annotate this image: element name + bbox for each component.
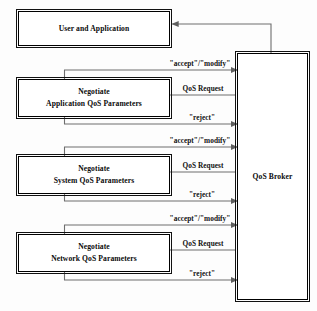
edge-label-sys-reject: "reject" — [168, 190, 236, 199]
edge-app-accept-modify — [65, 70, 238, 79]
qos-broker-diagram: User and Application Negotiate Applicati… — [0, 0, 317, 311]
edge-net-accept-modify — [65, 225, 238, 234]
edge-label-net-qos-request: QoS Request — [166, 239, 240, 248]
node-user-and-application[interactable]: User and Application — [18, 11, 170, 46]
edge-label-sys-qos-request: QoS Request — [166, 161, 240, 170]
edge-sys-accept-modify — [65, 147, 238, 156]
node-negotiate-system-line1: Negotiate — [78, 163, 110, 175]
edge-label-sys-accept-modify: "accept"/"modify" — [156, 136, 244, 145]
node-negotiate-network-line2: Network QoS Parameters — [51, 253, 137, 265]
edge-label-net-reject: "reject" — [168, 269, 236, 278]
edge-label-net-accept-modify: "accept"/"modify" — [156, 214, 244, 223]
node-negotiate-network-line1: Negotiate — [78, 241, 110, 253]
edge-label-app-qos-request: QoS Request — [166, 84, 240, 93]
node-qos-broker[interactable]: QoS Broker — [237, 53, 308, 300]
node-qos-broker-label: QoS Broker — [253, 172, 293, 181]
node-user-and-application-label: User and Application — [59, 23, 130, 35]
node-negotiate-application-line2: Application QoS Parameters — [46, 98, 142, 110]
node-negotiate-system[interactable]: Negotiate System QoS Parameters — [18, 156, 170, 194]
node-negotiate-application-line1: Negotiate — [78, 86, 110, 98]
node-negotiate-system-line2: System QoS Parameters — [54, 175, 135, 187]
edge-label-app-reject: "reject" — [168, 113, 236, 122]
edge-broker-to-user — [173, 24, 272, 53]
node-negotiate-application[interactable]: Negotiate Application QoS Parameters — [18, 79, 170, 117]
node-negotiate-network[interactable]: Negotiate Network QoS Parameters — [18, 234, 170, 272]
edge-label-app-accept-modify: "accept"/"modify" — [156, 59, 244, 68]
